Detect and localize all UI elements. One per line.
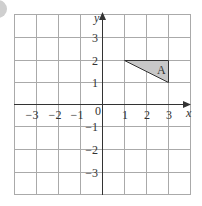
y-tick-label: 3 <box>92 31 98 45</box>
x-tick-label: −3 <box>26 108 39 122</box>
shape-label: A <box>157 63 166 77</box>
y-tick-label: −3 <box>85 166 98 180</box>
coordinate-grid: y x 0 −3 −2 −1 1 2 3 3 2 1 −1 −2 −3 A <box>0 0 202 206</box>
question-badge <box>0 0 7 18</box>
y-tick-label: −2 <box>85 143 98 157</box>
x-tick-label: −2 <box>49 108 62 122</box>
x-tick-label: 1 <box>122 108 128 122</box>
y-axis-label: y <box>93 11 100 25</box>
x-tick-label: 2 <box>144 108 150 122</box>
y-tick-label: 1 <box>92 76 98 90</box>
origin-label: 0 <box>95 104 101 118</box>
x-tick-label: 3 <box>166 108 172 122</box>
x-tick-label: −1 <box>71 108 84 122</box>
y-tick-label: −1 <box>85 120 98 134</box>
y-tick-label: 2 <box>92 54 98 68</box>
y-axis-arrow-icon <box>99 12 106 20</box>
x-axis-label: x <box>185 106 192 120</box>
